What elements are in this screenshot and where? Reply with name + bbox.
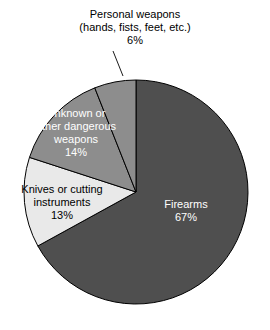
slice-label-unknown-weapons: Unknown or other dangerous weapons 14% [28, 107, 124, 159]
slice-label-personal-weapons: Personal weapons (hands, fists, feet, et… [35, 8, 235, 47]
pie-chart: Personal weapons (hands, fists, feet, et… [0, 0, 270, 330]
slice-label-firearms: Firearms 67% [140, 198, 232, 224]
callout-leader-line [113, 51, 123, 76]
pie-chart-graphic [0, 0, 270, 330]
slice-label-knives: Knives or cutting instruments 13% [6, 183, 118, 222]
